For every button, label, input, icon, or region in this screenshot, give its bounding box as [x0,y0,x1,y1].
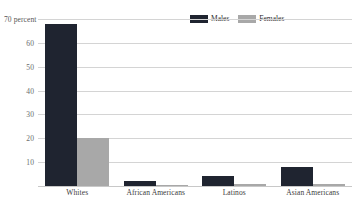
bar-females [156,185,188,186]
y-axis-tick-label: 20 [26,134,34,143]
x-axis-category-label: Asian Americans [274,188,353,197]
y-axis-tick-label: 30 [26,110,34,119]
plot-area: 70 percent605040302010 [38,19,352,186]
y-axis-tick-label: 60 [26,38,34,47]
bar-group [38,19,117,186]
y-axis-tick-label: 40 [26,86,34,95]
y-axis-tick-label: 70 percent [4,15,36,24]
bar-males [124,181,156,186]
x-axis-category-label: African Americans [117,188,196,197]
bar-females [234,184,266,186]
bar-females [313,184,345,186]
bar-males [45,24,77,186]
y-axis-tick-label: 10 [26,158,34,167]
axis-baseline [38,186,352,187]
bar-males [281,167,313,186]
bar-group [195,19,274,186]
x-axis-labels: WhitesAfrican AmericansLatinosAsian Amer… [38,188,352,197]
y-axis-tick-label: 50 [26,62,34,71]
bar-group [274,19,353,186]
x-axis-category-label: Whites [38,188,117,197]
bar-groups [38,19,352,186]
x-axis-category-label: Latinos [195,188,274,197]
bar-chart: Males Females 70 percent605040302010 Whi… [0,0,360,215]
bar-males [202,176,234,186]
bar-females [77,138,109,186]
bar-group [117,19,196,186]
